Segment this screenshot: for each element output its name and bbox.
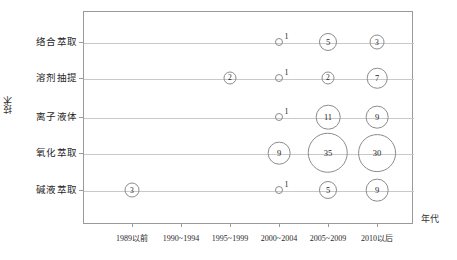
bubble-value-outside: 1	[285, 69, 289, 77]
bubble-氧化萃取-2010以后[interactable]: 30	[358, 134, 396, 172]
bubble-value: 11	[324, 113, 332, 122]
bubble-络合萃取-2000~2004[interactable]	[275, 38, 283, 46]
bubble-离子液体-2005~2009[interactable]: 11	[316, 105, 341, 130]
x-axis-label-4: 2005~2009	[310, 234, 346, 244]
bubble-离子液体-2010以后[interactable]: 9	[366, 106, 389, 129]
y-axis-tick-1	[79, 78, 83, 79]
bubble-value-outside: 1	[285, 33, 289, 41]
bubble-value: 3	[375, 38, 379, 46]
x-axis-title: 年代	[421, 212, 439, 225]
bubble-溶剂抽提-1995~1999[interactable]: 2	[223, 71, 236, 84]
bubble-络合萃取-2010以后[interactable]: 3	[370, 35, 385, 50]
bubble-value: 2	[326, 74, 330, 82]
bubble-value: 9	[375, 186, 379, 195]
bubble-碱液萃取-1989以前[interactable]: 3	[125, 183, 140, 198]
y-axis-label-4: 碱液萃取	[36, 184, 77, 196]
x-axis-label-3: 2000~2004	[261, 234, 297, 244]
bubble-value: 3	[130, 186, 134, 194]
y-axis-tick-4	[79, 190, 83, 191]
bubble-value: 5	[326, 38, 330, 47]
bubble-value: 30	[373, 149, 382, 158]
x-axis-label-0: 1989以前	[116, 234, 148, 244]
bubble-value: 5	[326, 186, 330, 195]
bubble-value: 35	[324, 149, 333, 158]
gridline-row-2	[84, 118, 414, 119]
x-axis-tick-1	[181, 223, 182, 227]
y-axis-tick-3	[79, 153, 83, 154]
x-axis-tick-2	[230, 223, 231, 227]
gridline-row-1	[84, 79, 414, 80]
bubble-value: 9	[277, 149, 281, 158]
bubble-络合萃取-2005~2009[interactable]: 5	[319, 33, 337, 51]
x-axis-tick-0	[132, 223, 133, 227]
x-axis-tick-4	[328, 223, 329, 227]
bubble-碱液萃取-2010以后[interactable]: 9	[366, 179, 389, 202]
x-axis-label-2: 1995~1999	[212, 234, 248, 244]
y-axis-label-1: 溶剂抽提	[36, 72, 77, 84]
bubble-溶剂抽提-2000~2004[interactable]	[275, 74, 283, 82]
bubble-value: 7	[375, 74, 379, 83]
gridline-row-0	[84, 43, 414, 44]
y-axis-tick-0	[79, 42, 83, 43]
bubble-氧化萃取-2000~2004[interactable]: 9	[268, 142, 291, 165]
y-axis-title: 技术	[2, 96, 18, 114]
bubble-value: 2	[228, 74, 232, 82]
bubble-碱液萃取-2005~2009[interactable]: 5	[319, 181, 337, 199]
x-axis-tick-5	[377, 223, 378, 227]
bubble-value-outside: 1	[285, 108, 289, 116]
bubble-溶剂抽提-2010以后[interactable]: 7	[367, 68, 388, 89]
x-axis-tick-3	[279, 223, 280, 227]
bubble-value: 9	[375, 113, 379, 122]
bubble-chart: 技术 年代 络合萃取溶剂抽提离子液体氧化萃取碱液萃取1989以前1990~199…	[0, 0, 457, 260]
bubble-碱液萃取-2000~2004[interactable]	[275, 186, 283, 194]
bubble-离子液体-2000~2004[interactable]	[275, 113, 283, 121]
bubble-溶剂抽提-2005~2009[interactable]: 2	[321, 71, 334, 84]
x-axis-label-1: 1990~1994	[163, 234, 199, 244]
y-axis-label-0: 络合萃取	[36, 36, 77, 48]
y-axis-tick-2	[79, 117, 83, 118]
y-axis-label-2: 离子液体	[36, 111, 77, 123]
y-axis-label-3: 氧化萃取	[36, 147, 77, 159]
x-axis-label-5: 2010以后	[361, 234, 393, 244]
bubble-value-outside: 1	[285, 181, 289, 189]
